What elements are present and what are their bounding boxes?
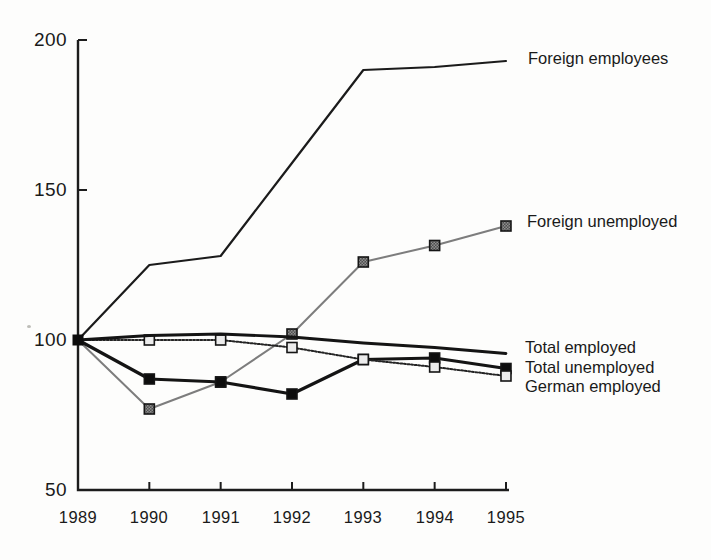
employment-index-line-chart: 200 150 100 50 1989 1990 1991 1992 1993 … bbox=[0, 0, 711, 560]
x-tick-label-1993: 1993 bbox=[328, 508, 398, 527]
checkered-square-marker bbox=[501, 221, 511, 231]
scan-speck bbox=[27, 325, 31, 328]
open-square-marker bbox=[501, 371, 511, 381]
filled-square-marker bbox=[144, 374, 154, 384]
series-label-foreign-employees: Foreign employees bbox=[528, 49, 668, 68]
series-foreign-employees bbox=[78, 61, 506, 340]
x-tick-label-1990: 1990 bbox=[114, 508, 184, 527]
x-tick-label-1994: 1994 bbox=[400, 508, 470, 527]
y-tick-label-50: 50 bbox=[7, 479, 67, 501]
filled-square-marker bbox=[287, 389, 297, 399]
filled-square-marker bbox=[216, 377, 226, 387]
origin-marker bbox=[73, 335, 84, 346]
series-label-total-unemployed: Total unemployed bbox=[525, 358, 654, 377]
open-square-marker bbox=[287, 343, 297, 353]
series-lines bbox=[73, 61, 511, 414]
x-tick-label-1989: 1989 bbox=[43, 508, 113, 527]
series-label-german-employed: German employed bbox=[525, 377, 661, 396]
y-tick-label-100: 100 bbox=[7, 329, 67, 351]
series-label-foreign-unemployed: Foreign unemployed bbox=[527, 212, 677, 231]
y-tick-label-200: 200 bbox=[7, 29, 67, 51]
x-tick-label-1995: 1995 bbox=[471, 508, 541, 527]
open-square-marker bbox=[430, 362, 440, 372]
open-square-marker bbox=[358, 355, 368, 365]
series-foreign-unemployed bbox=[78, 221, 511, 414]
chart-canvas bbox=[0, 0, 711, 560]
series-label-total-employed: Total employed bbox=[525, 338, 636, 357]
open-square-marker bbox=[216, 335, 226, 345]
checkered-square-marker bbox=[430, 241, 440, 251]
checkered-square-marker bbox=[358, 257, 368, 267]
checkered-square-marker bbox=[144, 404, 154, 414]
x-tick-label-1992: 1992 bbox=[257, 508, 327, 527]
y-tick-label-150: 150 bbox=[7, 179, 67, 201]
x-tick-label-1991: 1991 bbox=[186, 508, 256, 527]
axes bbox=[78, 40, 509, 490]
